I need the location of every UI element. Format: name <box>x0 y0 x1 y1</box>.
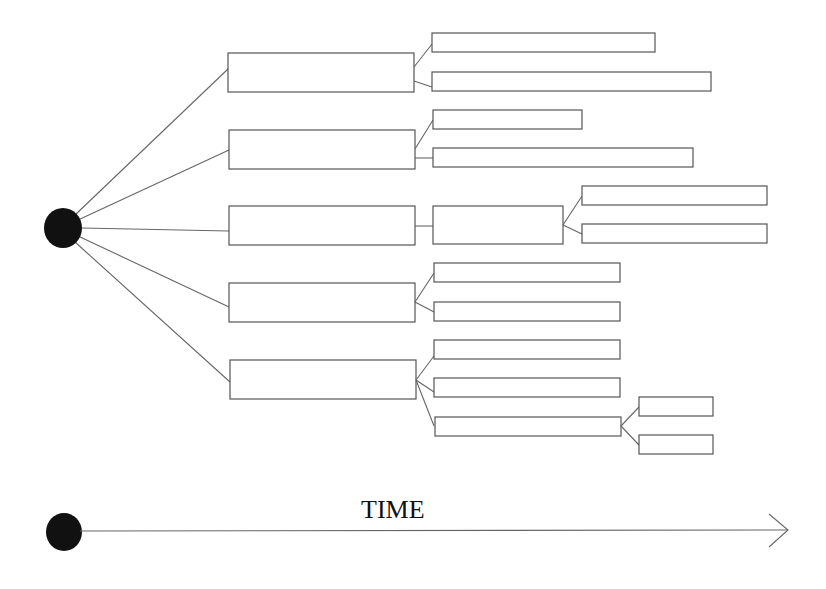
origin-dot <box>44 208 82 248</box>
branch-box-5 <box>230 360 416 399</box>
leaf-box-5c2 <box>639 435 713 454</box>
leaf-box-4a <box>434 263 620 282</box>
leaf-box-2b <box>433 148 693 167</box>
leaf-box-5c1 <box>639 397 713 416</box>
branch-box-4 <box>229 283 415 322</box>
root-edges <box>75 69 230 382</box>
timeline-axis <box>80 530 788 531</box>
sub-branch-box-5c <box>435 417 621 436</box>
timeline-label: TIME <box>361 495 425 524</box>
tree-diagram: TIME <box>0 0 826 589</box>
leaf-box-5a <box>434 340 620 359</box>
leaf-box-2a <box>433 110 582 129</box>
level1-boxes <box>228 53 416 399</box>
branch-box-2 <box>229 130 415 169</box>
leaf-box-3b <box>582 224 767 243</box>
sub-branch-box-3 <box>433 206 563 244</box>
leaf-box-1b <box>432 72 711 91</box>
leaf-box-3a <box>582 186 767 205</box>
branch-box-1 <box>228 53 414 92</box>
leaf-box-5b <box>434 378 620 397</box>
leaf-box-1a <box>432 33 655 52</box>
leaf-box-4b <box>434 302 620 321</box>
level2-edges <box>414 44 434 426</box>
branch-box-3 <box>229 206 415 245</box>
timeline: TIME <box>46 495 788 551</box>
timeline-start-dot <box>46 513 82 551</box>
